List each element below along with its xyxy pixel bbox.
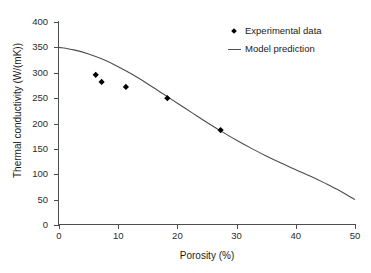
line-marker-icon <box>228 43 242 55</box>
x-axis-title: Porosity (%) <box>59 250 355 261</box>
legend-label-experimental-data: Experimental data <box>242 26 322 36</box>
diamond-marker-icon <box>228 25 242 37</box>
legend-item-model-prediction: Model prediction <box>228 40 368 58</box>
chart-figure: Thermal conductivity (W/(mK)) 0501001502… <box>0 0 371 273</box>
legend-label-model-prediction: Model prediction <box>242 44 315 54</box>
data-point <box>123 84 129 90</box>
data-point <box>164 95 170 101</box>
experimental-data-markers <box>93 72 224 134</box>
data-point <box>93 72 99 78</box>
data-point <box>99 79 105 85</box>
legend-item-experimental-data: Experimental data <box>228 22 368 40</box>
model-prediction-curve <box>59 47 355 199</box>
chart-legend: Experimental data Model prediction <box>228 22 368 58</box>
